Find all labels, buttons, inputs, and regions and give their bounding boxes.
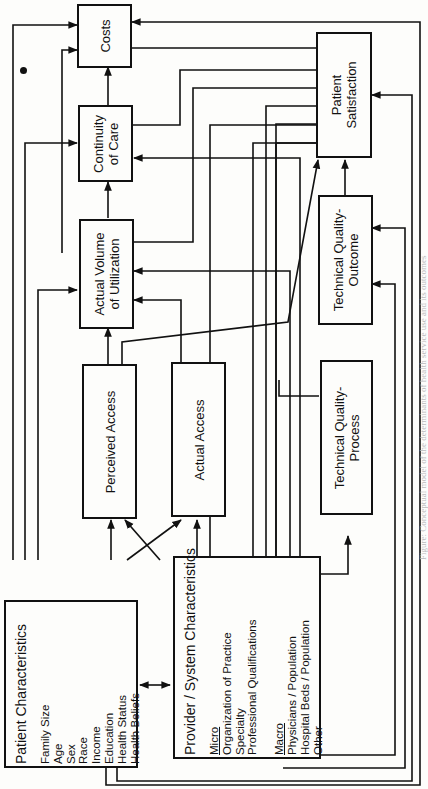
patient-item: Health Status xyxy=(116,624,129,764)
continuity-of-care-box: Continuity of Care xyxy=(78,105,133,182)
volume-line2: of Utilization xyxy=(107,232,122,315)
patient-characteristics-content: Patient Characteristics Family Size Age … xyxy=(12,624,141,764)
actual-access-box: Actual Access xyxy=(171,362,226,517)
patient-item: Health Beliefs xyxy=(129,624,142,764)
patient-item: Education xyxy=(103,624,116,764)
perceived-access-to-satisfaction xyxy=(122,160,318,364)
satisfaction-line2: Satisfaction xyxy=(344,61,359,128)
macro-heading: Macro xyxy=(273,548,286,755)
actual-access-to-volume xyxy=(134,300,181,364)
tq-process-line1: Technical Quality- xyxy=(332,386,347,489)
technical-quality-process-box: Technical Quality- Process xyxy=(320,360,373,515)
figure-caption: Figure: Conceptual model of the determin… xyxy=(418,256,428,560)
micro-item: Professional Qualifications xyxy=(246,548,259,755)
perceived-access-label: Perceived Access xyxy=(102,390,117,493)
tq-outcome-line2: Outcome xyxy=(346,209,361,312)
patient-to-continuity xyxy=(25,143,77,560)
actual-access-label: Actual Access xyxy=(191,399,206,480)
volume-line1: Actual Volume xyxy=(92,232,107,315)
patient-item: Race xyxy=(77,624,90,764)
patient-to-tq-outcome xyxy=(372,228,405,660)
continuity-line2: of Care xyxy=(106,115,121,173)
patient-item: Age xyxy=(52,624,65,764)
continuity-label: Continuity of Care xyxy=(91,115,121,173)
costs-box: Costs xyxy=(77,4,132,68)
micro-heading: Micro xyxy=(208,548,221,755)
patient-to-volume xyxy=(38,290,77,560)
provider-characteristics-content: Provider / System Characteristics Micro … xyxy=(181,548,324,755)
volume-to-costs xyxy=(62,50,77,253)
macro-item: Hospital Beds / Population xyxy=(299,548,312,755)
actual-volume-utilization-box: Actual Volume of Utilization xyxy=(79,219,134,329)
macro-item: Physicians / Population xyxy=(286,548,299,755)
tq-process-line2: Process xyxy=(347,386,362,489)
costs-label: Costs xyxy=(97,19,112,52)
patient-characteristics-title: Patient Characteristics xyxy=(12,624,30,764)
tq-outcome-line1: Technical Quality- xyxy=(331,209,346,312)
patient-item: Family Size xyxy=(39,624,52,764)
continuity-line1: Continuity xyxy=(91,115,106,173)
micro-item: Specialty xyxy=(234,548,247,755)
patient-characteristics-box: Patient Characteristics Family Size Age … xyxy=(4,600,138,768)
satisfaction-line1: Patient xyxy=(329,61,344,128)
patient-to-satisfaction xyxy=(372,95,412,660)
perceived-access-box: Perceived Access xyxy=(82,364,137,519)
provider-to-tq-outcome xyxy=(372,284,395,655)
patient-item: Income xyxy=(90,624,103,764)
technical-quality-outcome-box: Technical Quality- Outcome xyxy=(318,195,373,325)
tq-process-line xyxy=(279,380,319,396)
patient-satisfaction-box: Patient Satisfaction xyxy=(316,32,372,158)
provider-characteristics-title: Provider / System Characteristics xyxy=(181,548,199,755)
patient-to-costs xyxy=(13,25,77,560)
macro-item: Other xyxy=(312,548,325,755)
provider-system-characteristics-box: Provider / System Characteristics Micro … xyxy=(173,556,321,759)
patient-item: Sex xyxy=(65,624,78,764)
volume-label: Actual Volume of Utilization xyxy=(92,232,122,315)
satisfaction-label: Patient Satisfaction xyxy=(329,61,359,128)
tq-outcome-label: Technical Quality- Outcome xyxy=(331,209,361,312)
tq-process-label: Technical Quality- Process xyxy=(332,386,362,489)
micro-item: Organization of Practice xyxy=(221,548,234,755)
bullet-dot xyxy=(20,67,27,74)
